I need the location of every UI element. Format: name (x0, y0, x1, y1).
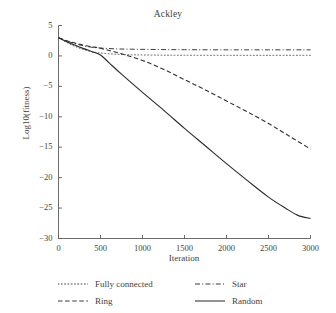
legend-label: Star (232, 279, 247, 289)
legend-label: Random (232, 296, 263, 306)
x-tick-label: 500 (84, 243, 118, 253)
chart-legend: Fully connectedStarRingRandom (40, 276, 312, 310)
y-tick-label: 0 (27, 50, 53, 60)
x-tick-label: 2000 (210, 243, 244, 253)
y-tick-label: −25 (27, 202, 53, 212)
series-line-random (59, 38, 311, 219)
series-layer (59, 38, 311, 219)
legend-item-ring[interactable]: Ring (58, 293, 113, 308)
legend-item-star[interactable]: Star (195, 276, 247, 291)
x-tick-label: 1500 (168, 243, 202, 253)
x-tick-label: 1000 (126, 243, 160, 253)
legend-line-sample (195, 279, 225, 289)
legend-label: Ring (95, 296, 113, 306)
x-tick-label: 0 (42, 243, 76, 253)
series-line-star (59, 38, 311, 50)
y-tick-label: 5 (27, 20, 53, 30)
y-tick-label: −5 (27, 80, 53, 90)
legend-line-sample (58, 279, 88, 289)
figure: Ackley Log10(fitness) Iteration 50−5−10−… (0, 0, 336, 313)
legend-line-sample (195, 296, 225, 306)
x-tick-label: 2500 (252, 243, 286, 253)
tick-marks (59, 26, 311, 239)
axes-frame (59, 26, 311, 239)
series-line-ring (59, 38, 311, 149)
legend-line-sample (58, 296, 88, 306)
y-tick-label: −30 (27, 233, 53, 243)
x-tick-label: 3000 (294, 243, 328, 253)
legend-label: Fully connected (95, 279, 153, 289)
legend-item-fully-connected[interactable]: Fully connected (58, 276, 153, 291)
y-tick-label: −15 (27, 141, 53, 151)
plot-area (0, 0, 336, 313)
y-tick-label: −10 (27, 111, 53, 121)
y-tick-label: −20 (27, 172, 53, 182)
legend-item-random[interactable]: Random (195, 293, 263, 308)
